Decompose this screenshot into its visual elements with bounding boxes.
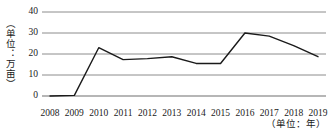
x-axis-tick-label: 2014 bbox=[187, 109, 206, 119]
x-axis-tick-label: 2011 bbox=[114, 109, 133, 119]
chart-svg bbox=[42, 0, 326, 108]
y-axis-tick-label: 0 bbox=[33, 91, 38, 101]
x-axis-tick-label: 2017 bbox=[260, 109, 279, 119]
x-axis-tick-label: 2013 bbox=[162, 109, 181, 119]
y-axis-tick-label: 40 bbox=[29, 7, 39, 17]
y-axis-tick-labels: 010203040 bbox=[18, 0, 40, 108]
x-axis-tick-label: 2019 bbox=[309, 109, 328, 119]
x-axis-tick-label: 2015 bbox=[211, 109, 230, 119]
x-axis-unit-label: （单位：年） bbox=[266, 120, 326, 130]
gridlines bbox=[42, 12, 326, 96]
x-axis-tick-label: 2009 bbox=[65, 109, 84, 119]
plot-area bbox=[42, 0, 326, 108]
y-axis-tick-label: 20 bbox=[29, 49, 39, 59]
x-axis-tick-label: 2016 bbox=[235, 109, 254, 119]
data-line bbox=[50, 33, 318, 96]
y-axis-unit-text: （单位：万亩） bbox=[4, 19, 14, 89]
x-axis-tick-label: 2010 bbox=[89, 109, 108, 119]
y-axis-tick-label: 30 bbox=[29, 28, 39, 38]
y-axis-tick-label: 10 bbox=[29, 70, 39, 80]
y-axis-unit-label: （单位：万亩） bbox=[0, 0, 18, 108]
x-axis-tick-label: 2008 bbox=[41, 109, 60, 119]
line-chart: （单位：万亩） 010203040 2008200920102011201220… bbox=[0, 0, 330, 135]
x-axis-tick-label: 2012 bbox=[138, 109, 157, 119]
x-axis-tick-label: 2018 bbox=[284, 109, 303, 119]
